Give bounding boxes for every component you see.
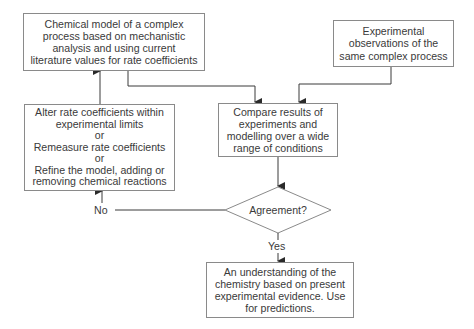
node-text-line: range of conditions	[227, 142, 329, 154]
arrow-model-to-compare	[128, 70, 255, 102]
node-understanding: An understanding of the chemistry based …	[206, 262, 354, 318]
node-text-line: for predictions.	[215, 302, 346, 314]
node-text-line: analysis and using current	[30, 42, 197, 54]
node-text-line: or	[32, 130, 166, 142]
node-text-line: literature values for rate coefficients	[30, 54, 197, 66]
edge-label-yes: Yes	[268, 240, 285, 252]
node-text-line: Chemical model of a complex	[30, 18, 197, 30]
node-experimental-observations: Experimental observations of the same co…	[333, 20, 454, 67]
node-text-line: Compare results of	[227, 106, 329, 118]
node-text-line: modelling over a wide	[227, 130, 329, 142]
node-text-line: removing chemical reactions	[32, 176, 166, 188]
arrow-observations-to-compare	[299, 66, 391, 102]
node-text-line: experiments and	[227, 118, 329, 130]
edge-label-no: No	[94, 204, 108, 216]
node-text-line: process based on mechanistic	[30, 30, 197, 42]
decision-label: Agreement?	[238, 204, 318, 216]
node-text-line: same complex process	[339, 50, 447, 62]
node-alter-rate-coefficients: Alter rate coefficients within experimen…	[24, 104, 175, 191]
node-text-line: Experimental	[339, 25, 447, 37]
node-text-line: observations of the	[339, 37, 447, 49]
node-text-line: chemistry based on present	[215, 278, 346, 290]
node-compare-results: Compare results of experiments and model…	[218, 103, 338, 157]
node-chemical-model: Chemical model of a complex process base…	[23, 13, 205, 71]
node-text-line: experimental evidence. Use	[215, 290, 346, 302]
node-text-line: Alter rate coefficients within	[32, 107, 166, 119]
node-text-line: An understanding of the	[215, 266, 346, 278]
